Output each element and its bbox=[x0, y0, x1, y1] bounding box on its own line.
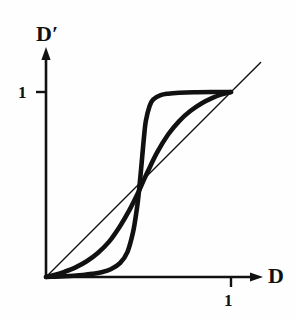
plot-canvas bbox=[0, 0, 296, 320]
x-axis-arrowhead bbox=[250, 273, 263, 282]
data-series-group bbox=[46, 62, 261, 277]
y-axis-tick-label-1: 1 bbox=[18, 84, 27, 101]
y-axis-title-text: D bbox=[36, 21, 52, 46]
x-axis-title: D bbox=[268, 265, 284, 287]
x-axis-tick-label-1: 1 bbox=[224, 292, 233, 309]
y-axis-prime-glyph: ′ bbox=[52, 21, 58, 46]
y-axis-arrowhead bbox=[41, 47, 50, 60]
y-axis-title: D′ bbox=[36, 23, 58, 45]
figure-container: D′ D 1 1 bbox=[0, 0, 296, 320]
